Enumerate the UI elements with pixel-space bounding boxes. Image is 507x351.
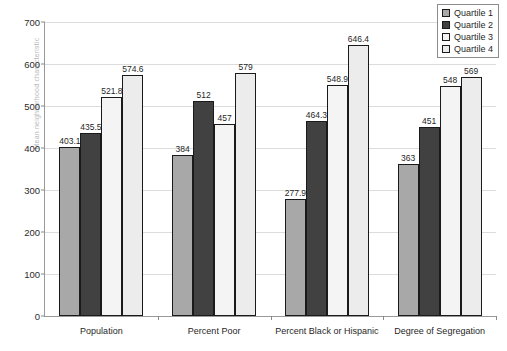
legend-swatch-icon: [442, 45, 450, 53]
bar-value-label: 548: [443, 75, 457, 85]
legend[interactable]: Quartile 1Quartile 2Quartile 3Quartile 4: [437, 4, 499, 58]
bar-groups: 403.1435.5521.8574.6Population3845124575…: [45, 22, 496, 316]
bar-value-label: 451: [422, 116, 436, 126]
bar[interactable]: 521.8: [101, 97, 122, 316]
bar-value-label: 579: [239, 62, 253, 72]
bar-value-label: 277.9: [285, 188, 306, 198]
bar[interactable]: 548: [440, 86, 461, 316]
bar-slot: 579: [235, 22, 256, 316]
bar[interactable]: 574.6: [122, 75, 143, 316]
bar[interactable]: 451: [419, 127, 440, 316]
x-axis-category-label: Percent Poor: [188, 326, 241, 336]
bar-slot: 512: [193, 22, 214, 316]
bar-value-label: 569: [464, 66, 478, 76]
y-axis-tick-label: 500: [24, 101, 40, 112]
legend-item-label: Quartile 2: [454, 20, 493, 30]
bar[interactable]: 277.9: [285, 199, 306, 316]
bar-value-label: 457: [218, 113, 232, 123]
bar-group: 363451548569Degree of Segregation: [383, 22, 496, 316]
bar-group: 403.1435.5521.8574.6Population: [45, 22, 158, 316]
legend-item-label: Quartile 1: [454, 8, 493, 18]
x-axis-tick-mark: [383, 316, 384, 320]
y-axis-tick-label: 300: [24, 185, 40, 196]
bar[interactable]: 363: [398, 164, 419, 316]
y-axis-tick-label: 200: [24, 227, 40, 238]
bar[interactable]: 512: [193, 101, 214, 316]
bar-slot: 451: [419, 22, 440, 316]
bar-slot: 548: [440, 22, 461, 316]
bar-group: 277.9464.3548.9646.4Percent Black or His…: [271, 22, 384, 316]
bar[interactable]: 384: [172, 155, 193, 316]
bar[interactable]: 548.9: [327, 85, 348, 316]
bar-group-bars: 277.9464.3548.9646.4: [271, 22, 384, 316]
legend-swatch-icon: [442, 9, 450, 17]
x-axis-tick-mark: [496, 316, 497, 320]
bar-slot: 403.1: [59, 22, 80, 316]
bar-group-bars: 403.1435.5521.8574.6: [45, 22, 158, 316]
bar-slot: 646.4: [348, 22, 369, 316]
legend-item-label: Quartile 3: [454, 32, 493, 42]
bar[interactable]: 646.4: [348, 45, 369, 316]
y-axis-tick-label: 700: [24, 17, 40, 28]
legend-item-label: Quartile 4: [454, 44, 493, 54]
y-axis-tick-label: 600: [24, 59, 40, 70]
bar-value-label: 512: [197, 90, 211, 100]
bar-slot: 363: [398, 22, 419, 316]
legend-swatch-icon: [442, 21, 450, 29]
x-axis-category-label: Population: [80, 326, 123, 336]
bar-value-label: 548.9: [327, 74, 348, 84]
bar-value-label: 521.8: [101, 86, 122, 96]
plot-area: 0100200300400500600700 403.1435.5521.857…: [44, 22, 496, 317]
legend-item[interactable]: Quartile 3: [442, 32, 493, 42]
bar[interactable]: 403.1: [59, 147, 80, 316]
x-axis-tick-mark: [158, 316, 159, 320]
x-axis-category-label: Degree of Segregation: [394, 326, 485, 336]
bar-value-label: 363: [401, 153, 415, 163]
bar-slot: 548.9: [327, 22, 348, 316]
y-axis-tick-label: 0: [35, 311, 40, 322]
legend-swatch-icon: [442, 33, 450, 41]
bar-slot: 457: [214, 22, 235, 316]
bar-slot: 574.6: [122, 22, 143, 316]
bar-slot: 569: [461, 22, 482, 316]
bar[interactable]: 579: [235, 73, 256, 316]
x-axis-category-label: Percent Black or Hispanic: [275, 326, 378, 336]
bar-slot: 277.9: [285, 22, 306, 316]
bar-slot: 435.5: [80, 22, 101, 316]
bar-value-label: 646.4: [348, 34, 369, 44]
bar-slot: 384: [172, 22, 193, 316]
bar[interactable]: 457: [214, 124, 235, 316]
bar-group-bars: 363451548569: [383, 22, 496, 316]
bar-value-label: 435.5: [80, 122, 101, 132]
bar-chart: Mean neighborhood characteristic 0100200…: [0, 0, 507, 351]
bar-value-label: 574.6: [122, 64, 143, 74]
bar[interactable]: 464.3: [306, 121, 327, 316]
bar-slot: 464.3: [306, 22, 327, 316]
bar-group: 384512457579Percent Poor: [158, 22, 271, 316]
bar-slot: 521.8: [101, 22, 122, 316]
bar-group-bars: 384512457579: [158, 22, 271, 316]
y-axis-tick-label: 100: [24, 269, 40, 280]
bar[interactable]: 435.5: [80, 133, 101, 316]
legend-item[interactable]: Quartile 4: [442, 44, 493, 54]
bar-value-label: 464.3: [306, 110, 327, 120]
y-axis-tick-label: 400: [24, 143, 40, 154]
legend-item[interactable]: Quartile 2: [442, 20, 493, 30]
bar-value-label: 384: [176, 144, 190, 154]
legend-item[interactable]: Quartile 1: [442, 8, 493, 18]
x-axis-tick-mark: [271, 316, 272, 320]
bar[interactable]: 569: [461, 77, 482, 316]
bar-value-label: 403.1: [59, 136, 80, 146]
